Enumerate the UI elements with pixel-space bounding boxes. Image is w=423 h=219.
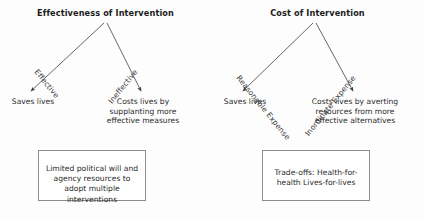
branch-label-effective: Effective bbox=[33, 68, 61, 100]
diagram-canvas: Effectiveness of Intervention Effective … bbox=[0, 0, 423, 219]
conclusion-box-effectiveness: Limited political will and agency resour… bbox=[38, 150, 146, 201]
panel-title-cost: Cost of Intervention bbox=[212, 8, 423, 18]
conclusion-text-effectiveness: Limited political will and agency resour… bbox=[39, 164, 145, 205]
outcome-ineffective: Costs lives by supplanting more effectiv… bbox=[97, 97, 189, 126]
outcome-reasonable-expense: Saves lives bbox=[214, 97, 276, 107]
outcome-effective: Saves lives bbox=[2, 97, 64, 107]
arrow-reasonable-expense bbox=[243, 23, 313, 91]
outcome-inordinate-expense: Costs lives by averting resources from m… bbox=[309, 97, 401, 126]
panel-title-effectiveness: Effectiveness of Intervention bbox=[0, 8, 211, 18]
conclusion-box-cost: Trade-offs: Health-for-health Lives-for-… bbox=[262, 150, 370, 201]
conclusion-text-cost: Trade-offs: Health-for-health Lives-for-… bbox=[263, 168, 369, 188]
branch-label-reasonable-expense: Reasonable Expense bbox=[235, 74, 293, 142]
